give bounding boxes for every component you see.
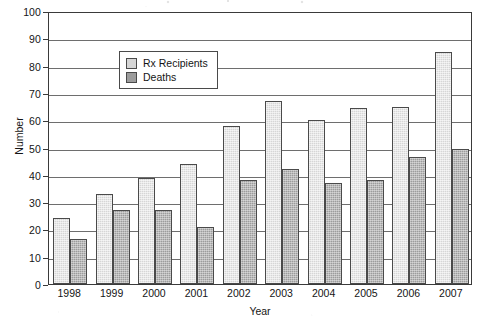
bar-deaths-2002 [240,180,257,284]
plot-area: Rx RecipientsDeaths [48,12,472,285]
legend-swatch-rx [126,58,137,69]
x-axis-tick-labels: 1998199920002001200220032004200520062007 [48,287,472,303]
y-axis-tick-label: 30 [29,197,41,209]
bar-rx-recipients-2005 [350,108,367,284]
y-axis-tick-label: 50 [29,143,41,155]
y-axis-tick-label: 20 [29,224,41,236]
y-axis-tick-label: 70 [29,88,41,100]
y-axis-tick-label: 40 [29,170,41,182]
bar-rx-recipients-2006 [392,107,409,284]
x-axis-tick-label: 1999 [100,287,123,299]
clipped-title-residue [150,0,330,6]
bar-rx-recipients-2004 [308,120,325,284]
legend-item-rx: Rx Recipients [126,56,208,70]
bar-deaths-2001 [197,227,214,284]
bar-chart-figure: 0102030405060708090100 Number Rx Recipie… [0,0,487,325]
legend-swatch-deaths [126,72,137,83]
legend-label: Deaths [143,71,176,83]
y-axis-tick-label: 90 [29,33,41,45]
y-axis-tick-mark [43,285,48,286]
legend-item-deaths: Deaths [126,70,208,84]
y-axis-tick-label: 60 [29,115,41,127]
x-axis-tick-label: 2006 [397,287,420,299]
bar-deaths-2007 [452,149,469,284]
x-axis-tick-label: 2002 [227,287,250,299]
y-axis-title: Number [13,101,25,171]
bar-rx-recipients-2007 [435,52,452,284]
x-axis-tick-label: 2003 [270,287,293,299]
bar-deaths-2003 [282,169,299,284]
bar-rx-recipients-2003 [265,101,282,284]
x-axis-tick-label: 1998 [58,287,81,299]
chart-legend: Rx RecipientsDeaths [119,51,218,89]
x-axis-tick-label: 2007 [439,287,462,299]
y-axis-tick-label: 10 [29,252,41,264]
y-axis-tick-label: 0 [35,279,41,291]
x-axis-tick-label: 2005 [354,287,377,299]
x-axis-tick-label: 2001 [185,287,208,299]
x-axis-tick-label: 2004 [312,287,335,299]
x-axis-tick-label: 2000 [142,287,165,299]
bar-rx-recipients-1998 [53,218,70,284]
bar-deaths-2006 [409,157,426,284]
x-axis-title: Year [48,305,472,317]
y-axis-tick-label: 100 [23,6,41,18]
y-axis: 0102030405060708090100 Number [0,12,48,285]
legend-label: Rx Recipients [143,57,208,69]
bar-deaths-1998 [70,239,87,284]
bar-deaths-1999 [113,210,130,284]
bar-deaths-2000 [155,210,172,284]
bar-rx-recipients-2000 [138,178,155,284]
bar-deaths-2004 [325,183,342,284]
bar-group-container [49,13,471,284]
bar-rx-recipients-1999 [96,194,113,284]
y-axis-tick-label: 80 [29,61,41,73]
bar-rx-recipients-2001 [180,164,197,284]
bar-rx-recipients-2002 [223,126,240,284]
bar-deaths-2005 [367,180,384,284]
